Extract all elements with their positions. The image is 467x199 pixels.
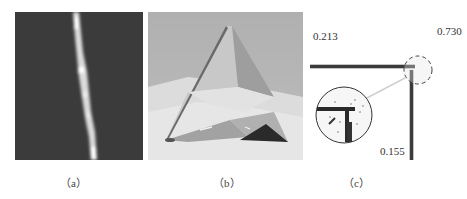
panel-a-image <box>15 12 143 160</box>
magnified-inset-circle <box>316 87 372 143</box>
bright-line-graphic <box>15 12 143 160</box>
panel-c-image: 0.213 0.730 0.155 <box>305 12 467 167</box>
caption-c: （c） <box>343 174 370 190</box>
corner-highlight-circle <box>404 56 432 84</box>
caption-b: （b） <box>213 174 241 190</box>
label-0155: 0.155 <box>380 145 405 157</box>
panel-b-image <box>148 12 303 160</box>
label-0213: 0.213 <box>313 30 338 42</box>
pyramid-graphic <box>148 12 303 160</box>
label-0730: 0.730 <box>437 25 462 37</box>
caption-a: （a） <box>60 174 87 190</box>
